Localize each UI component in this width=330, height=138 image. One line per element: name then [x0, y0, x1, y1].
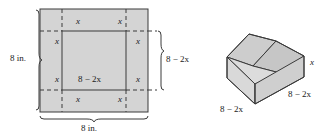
box-side-depth-label: 8 − 2x	[288, 90, 311, 99]
math-figure-open-box: 8 in. 8 in. x x x x x x x x 8 − 2x 8 − 2…	[0, 0, 330, 138]
box-height-label: x	[310, 58, 314, 67]
open-box-drawing	[0, 0, 330, 138]
box-front-width-label: 8 − 2x	[220, 105, 243, 114]
